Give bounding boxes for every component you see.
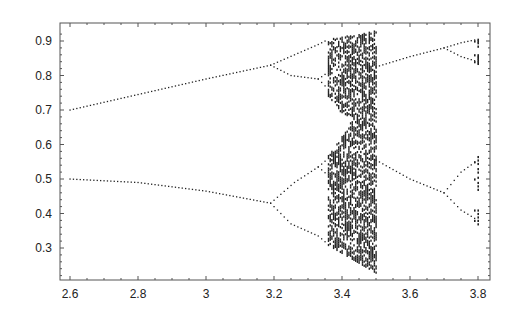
y-tick-label: 0.3 [35,241,52,255]
y-tick-label: 0.7 [35,103,52,117]
plot-frame [60,23,490,280]
x-axis-tick-labels: 2.62.833.23.43.63.8 [62,287,487,301]
bifurcation-chart: 2.62.833.23.43.63.8 0.30.40.50.60.70.80.… [0,0,518,316]
y-tick-label: 0.9 [35,34,52,48]
y-tick-label: 0.8 [35,69,52,83]
x-tick-label: 3.8 [470,287,487,301]
x-tick-label: 2.6 [62,287,79,301]
x-tick-label: 2.8 [130,287,147,301]
x-tick-label: 3 [203,287,210,301]
y-tick-label: 0.5 [35,172,52,186]
x-tick-label: 3.4 [334,287,351,301]
x-tick-label: 3.2 [266,287,283,301]
data-points [69,30,479,273]
axis-ticks [60,23,490,280]
y-axis-tick-labels: 0.30.40.50.60.70.80.9 [35,34,52,255]
y-tick-label: 0.6 [35,138,52,152]
y-tick-label: 0.4 [35,207,52,221]
x-tick-label: 3.6 [402,287,419,301]
